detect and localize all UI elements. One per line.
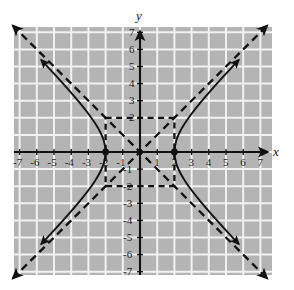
y-axis-label: y xyxy=(136,9,142,22)
x-tick-label-6: 6 xyxy=(240,157,246,168)
graph-canvas xyxy=(0,0,294,290)
x-tick-label--7: -7 xyxy=(13,157,22,168)
y-tick-label-5: 5 xyxy=(129,61,135,72)
x-tick-label-4: 4 xyxy=(206,157,212,168)
hyperbola-figure: y x -7-6-5-4-3-2-11234567765432-1-2-3-4-… xyxy=(0,0,294,290)
x-tick-label--5: -5 xyxy=(48,157,57,168)
x-tick-label-5: 5 xyxy=(223,157,229,168)
vertex-left xyxy=(102,149,109,156)
y-tick-label--1: -1 xyxy=(123,164,132,175)
x-tick-label--2: -2 xyxy=(99,157,108,168)
x-tick-label--4: -4 xyxy=(65,157,74,168)
y-tick-label-3: 3 xyxy=(129,95,135,106)
y-tick-label-2: 2 xyxy=(129,112,135,123)
y-tick-label--7: -7 xyxy=(123,266,132,277)
x-axis-label: x xyxy=(273,145,279,158)
y-tick-label-6: 6 xyxy=(129,44,135,55)
y-tick-label-7: 7 xyxy=(129,27,135,38)
y-tick-label-4: 4 xyxy=(129,78,135,89)
y-tick-label--3: -3 xyxy=(123,198,132,209)
y-tick-label--2: -2 xyxy=(123,181,132,192)
x-tick-label--3: -3 xyxy=(82,157,91,168)
y-tick-label--6: -6 xyxy=(123,249,132,260)
y-tick-label--4: -4 xyxy=(123,215,132,226)
x-tick-label-1: 1 xyxy=(154,157,160,168)
x-tick-label-3: 3 xyxy=(189,157,195,168)
vertex-right xyxy=(171,149,178,156)
x-tick-label-7: 7 xyxy=(257,157,263,168)
y-tick-label--5: -5 xyxy=(123,232,132,243)
x-tick-label-2: 2 xyxy=(171,157,177,168)
x-tick-label--6: -6 xyxy=(30,157,39,168)
